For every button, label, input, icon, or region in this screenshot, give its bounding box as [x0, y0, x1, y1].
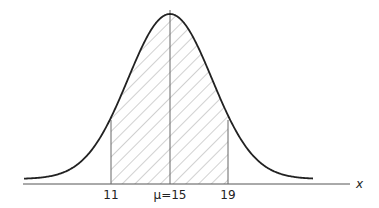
tick-label-11: 11: [103, 188, 118, 202]
normal-curve-plot: [0, 0, 379, 208]
x-axis-label: x: [356, 177, 363, 191]
tick-label-19: 19: [220, 188, 235, 202]
tick-label-mean: μ=15: [154, 188, 187, 202]
